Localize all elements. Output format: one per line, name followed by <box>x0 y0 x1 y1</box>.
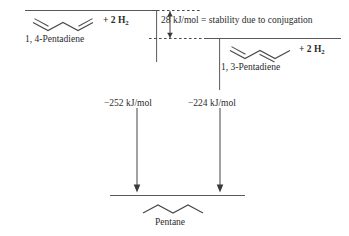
hydrogen-label-right: + 2 H2 <box>299 45 325 55</box>
enthalpy-label-left: −252 kJ/mol <box>104 99 152 109</box>
reaction-arrow-right <box>217 108 224 193</box>
reaction-arrow-left <box>134 108 141 193</box>
product-name: Pentane <box>155 218 185 228</box>
hydrogen-subscript-left: 2 <box>125 19 128 26</box>
stabilization-text: 28 kJ/mol = stability due to conjugation <box>161 16 313 26</box>
enthalpy-label-right: −224 kJ/mol <box>188 99 236 109</box>
hydrogen-label-left: + 2 H2 <box>103 16 129 26</box>
energy-diagram-canvas: + 2 H2 1, 4-Pentadiene 28 kJ/mol = stabi… <box>0 0 349 236</box>
pentadiene-1-3-skeletal-icon <box>230 47 290 62</box>
pentane-skeletal-icon <box>143 205 203 213</box>
pentadiene-1-4-skeletal-icon <box>33 19 93 31</box>
reactant-right-name: 1, 3-Pentadiene <box>221 63 280 73</box>
reactant-left-name: 1, 4-Pentadiene <box>25 35 84 45</box>
hydrogen-subscript-right: 2 <box>321 48 324 55</box>
